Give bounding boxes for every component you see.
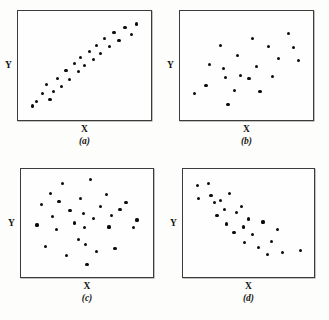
data-point [99,205,102,208]
data-point [270,240,273,243]
data-point [99,52,102,55]
data-point [208,63,211,66]
panel-caption-a: (a) [17,137,152,147]
data-point [240,205,243,208]
data-point [85,263,88,266]
data-point [277,57,280,60]
data-point [242,225,245,228]
data-point [233,89,236,92]
data-point [281,251,284,254]
data-point [83,64,86,67]
data-point [224,76,227,79]
data-point [266,253,269,256]
data-point [113,247,116,250]
points-layer-a [17,10,152,121]
data-point [95,44,98,47]
data-point [235,211,238,214]
data-point [223,208,226,211]
data-point [130,33,133,36]
data-point [287,32,290,35]
data-point [105,193,108,196]
data-point [65,254,68,257]
data-point [40,203,43,206]
data-point [41,92,44,95]
data-point [118,208,121,211]
panel-caption-b: (b) [179,137,314,147]
data-point [31,104,34,107]
data-point [215,214,218,217]
data-point [68,209,71,212]
data-point [207,182,210,185]
data-point [276,228,279,231]
data-point [197,197,200,200]
data-point [112,31,115,34]
panel-a [17,10,152,121]
data-point [193,92,196,95]
data-point [236,54,239,57]
data-point [271,75,274,78]
data-point [247,77,250,80]
data-point [228,192,231,195]
data-point [57,200,60,203]
x-axis-label-c: X [20,282,154,292]
data-point [56,77,59,80]
data-point [135,22,138,25]
data-point [77,70,80,73]
data-point [92,58,95,61]
points-layer-c [20,168,154,278]
y-axis-label-a: Y [5,61,12,71]
scatterplot-figure: Y X (a) Y X (b) Y X (c) Y X (d) [0,0,329,320]
data-point [196,184,199,187]
data-point [68,78,71,81]
data-point [108,45,111,48]
data-point [213,201,216,204]
data-point [55,228,58,231]
data-point [261,220,264,223]
data-point [267,45,270,48]
data-point [48,98,51,101]
data-point [239,74,242,77]
points-layer-d [182,168,315,278]
data-point [297,59,300,62]
data-point [79,197,82,200]
data-point [247,217,250,220]
data-point [132,226,135,229]
data-point [257,246,260,249]
data-point [61,182,64,185]
data-point [209,194,212,197]
data-point [107,225,110,228]
data-point [77,238,80,241]
data-point [232,231,235,234]
data-point [45,83,48,86]
data-point [49,192,52,195]
data-point [251,37,254,40]
data-point [204,84,207,87]
data-point [35,223,38,226]
data-point [35,100,38,103]
data-point [82,212,85,215]
panel-caption-d: (d) [182,294,315,304]
data-point [255,65,258,68]
data-point [83,226,86,229]
panel-d [182,168,315,278]
data-point [103,37,106,40]
data-point [251,233,254,236]
y-axis-label-c: Y [8,219,15,229]
x-axis-label-a: X [17,125,152,135]
data-point [52,90,55,93]
data-point [219,44,222,47]
data-point [222,67,225,70]
data-point [64,69,67,72]
data-point [123,26,126,29]
x-axis-label-b: X [179,125,314,135]
data-point [135,218,138,221]
data-point [110,214,113,217]
data-point [117,39,120,42]
data-point [95,250,98,253]
panel-c [20,168,154,278]
data-point [299,249,302,252]
data-point [124,201,127,204]
data-point [44,245,47,248]
data-point [88,50,91,53]
data-point [73,221,76,224]
